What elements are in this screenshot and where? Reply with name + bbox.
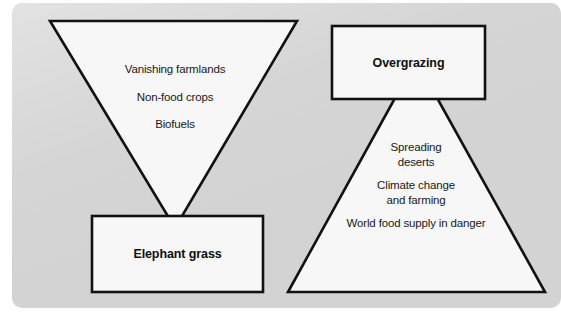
triangle-text-line: Climate change [296, 178, 536, 193]
box-label-overgrazing: Overgrazing [332, 26, 485, 99]
inverted-triangle-text-group: Vanishing farmlands Non-food crops Biofu… [63, 62, 287, 133]
triangle-text-line: Non-food crops [63, 90, 287, 106]
triangle-text-line: and farming [296, 193, 536, 208]
upright-triangle-text-group: Spreading deserts Climate change and far… [296, 140, 536, 231]
triangle-text-line: deserts [296, 155, 536, 170]
box-label-elephant-grass: Elephant grass [92, 216, 263, 292]
triangle-text-line: Vanishing farmlands [63, 62, 287, 78]
diagram-canvas: Vanishing farmlands Non-food crops Biofu… [0, 0, 561, 319]
triangle-text-line: Spreading [296, 140, 536, 155]
triangle-text-line: Biofuels [63, 117, 287, 133]
triangle-text-line: World food supply in danger [296, 216, 536, 231]
